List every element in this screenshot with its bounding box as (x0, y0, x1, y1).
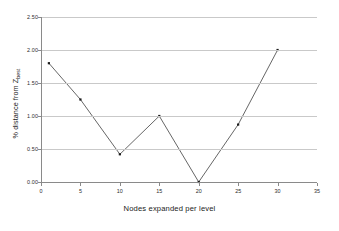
y-axis-tick-label: 2.50 (27, 14, 38, 20)
data-point-marker (79, 98, 81, 100)
x-axis-tick-label: 10 (117, 188, 123, 194)
line-series (41, 17, 317, 182)
gridline-horizontal (41, 83, 317, 84)
y-axis-tick-label: 1.00 (27, 113, 38, 119)
y-axis-title-main: % distance from Z (11, 79, 20, 139)
x-axis-tick-label: 30 (275, 188, 281, 194)
x-axis-tick-label: 5 (79, 188, 82, 194)
y-axis-tick-label: 2.00 (27, 47, 38, 53)
x-axis-tick-label: 15 (156, 188, 162, 194)
x-axis-tick-mark (199, 183, 200, 186)
y-axis-title-subscript: best (14, 69, 20, 79)
x-axis-tick-group: 05101520253035 (41, 183, 317, 201)
x-axis-tick-mark (238, 183, 239, 186)
gridline-horizontal (41, 17, 317, 18)
data-point-marker (119, 153, 121, 155)
gridline-horizontal (41, 149, 317, 150)
x-axis-tick-label: 0 (40, 188, 43, 194)
data-point-marker (48, 62, 50, 64)
y-axis-line (41, 17, 42, 183)
x-axis-tick-mark (80, 183, 81, 186)
data-point-marker (237, 123, 239, 125)
gridline-horizontal (41, 116, 317, 117)
x-axis-title: Nodes expanded per level (0, 204, 339, 213)
x-axis-tick-label: 35 (314, 188, 320, 194)
x-axis-tick-mark (159, 183, 160, 186)
y-axis-title: % distance from Zbest (11, 39, 20, 169)
chart-container: 0.000.501.001.502.002.50 05101520253035 … (0, 0, 339, 231)
y-axis-tick-label: 0.50 (27, 146, 38, 152)
y-axis-tick-label: 1.50 (27, 80, 38, 86)
x-axis-tick-label: 20 (196, 188, 202, 194)
plot-area (41, 17, 317, 182)
y-axis-tick-label: 0.00 (27, 179, 38, 185)
gridline-horizontal (41, 50, 317, 51)
x-axis-tick-mark (120, 183, 121, 186)
x-axis-tick-mark (317, 183, 318, 186)
x-axis-tick-mark (278, 183, 279, 186)
x-axis-tick-mark (41, 183, 42, 186)
x-axis-tick-label: 25 (235, 188, 241, 194)
